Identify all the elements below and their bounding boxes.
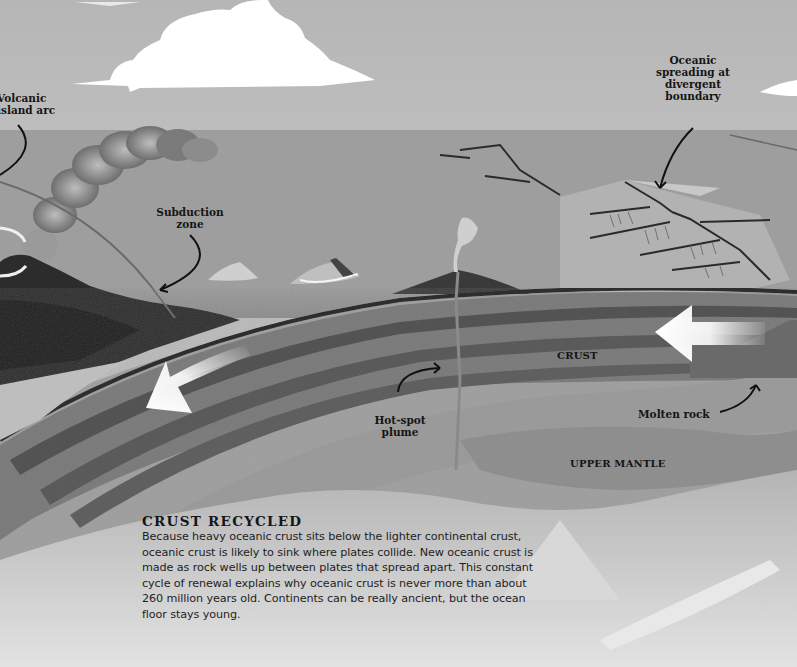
info-box: CRUST RECYCLED Because heavy oceanic cru… [142,513,537,623]
label-molten-rock: Molten rock [638,408,710,420]
label-subduction-zone: Subduction zone [150,206,230,230]
layer-label-crust: CRUST [557,350,598,361]
label-hot-spot-plume: Hot-spot plume [365,414,435,438]
info-title: CRUST RECYCLED [142,513,537,529]
label-oceanic-spreading: Oceanic spreading at divergent boundary [648,54,738,102]
info-body: Because heavy oceanic crust sits below t… [142,529,537,623]
label-volcanic-island-arc: Volcanic island arc [0,92,55,116]
layer-label-upper-mantle: UPPER MANTLE [570,458,666,469]
